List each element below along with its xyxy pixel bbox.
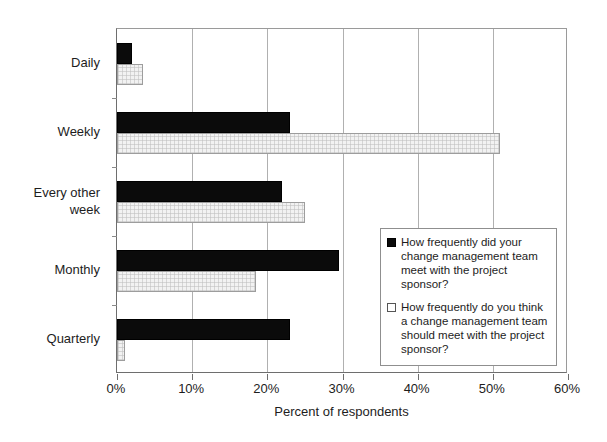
x-tick-label-30%: 30% <box>328 381 354 396</box>
x-tick-label-60%: 60% <box>554 381 580 396</box>
x-tick-label-50%: 50% <box>479 381 505 396</box>
x-tick-label-40%: 40% <box>404 381 430 396</box>
legend-swatch-dark-icon <box>387 238 396 247</box>
x-axis-tick-10% <box>192 374 193 380</box>
y-axis-label-quarterly: Quarterly <box>47 331 100 346</box>
legend-item-2: How frequently do you think a change man… <box>387 300 550 356</box>
y-axis-label-daily: Daily <box>71 55 100 70</box>
y-axis-label-monthly: Monthly <box>54 262 100 277</box>
bar-daily-series-2 <box>117 64 143 85</box>
x-axis-tick-30% <box>343 374 344 380</box>
bar-every-other-week-series-1 <box>117 181 282 202</box>
y-axis-category-labels: DailyWeeklyEvery otherweekMonthlyQuarter… <box>0 28 108 373</box>
y-axis-label-every-other-week: Every otherweek <box>34 185 100 217</box>
chart-legend: How frequently did your change managemen… <box>380 228 557 366</box>
bar-monthly-series-1 <box>117 250 339 271</box>
x-tick-label-10%: 10% <box>178 381 204 396</box>
x-axis-tick-labels: 0%10%20%30%40%50%60% <box>0 381 607 401</box>
legend-swatch-light-icon <box>387 303 396 312</box>
x-axis-tick-0% <box>117 374 118 380</box>
bar-weekly-series-1 <box>117 112 290 133</box>
gridline-30% <box>343 29 344 372</box>
x-axis-tick-40% <box>418 374 419 380</box>
legend-item-label: How frequently do you think a change man… <box>401 300 550 356</box>
y-axis-tick <box>112 305 117 306</box>
y-axis-tick <box>112 167 117 168</box>
x-axis-tick-60% <box>568 374 569 380</box>
y-axis-label-weekly: Weekly <box>58 124 100 139</box>
bar-weekly-series-2 <box>117 133 500 154</box>
bar-quarterly-series-1 <box>117 319 290 340</box>
bar-daily-series-1 <box>117 43 132 64</box>
legend-item-label: How frequently did your change managemen… <box>401 235 550 291</box>
y-axis-tick <box>112 236 117 237</box>
bar-monthly-series-2 <box>117 271 256 292</box>
bar-every-other-week-series-2 <box>117 202 305 223</box>
x-tick-label-20%: 20% <box>253 381 279 396</box>
legend-item-1: How frequently did your change managemen… <box>387 235 550 291</box>
x-tick-label-0%: 0% <box>107 381 126 396</box>
x-axis-title: Percent of respondents <box>116 404 567 419</box>
bar-quarterly-series-2 <box>117 340 125 361</box>
x-axis-tick-50% <box>493 374 494 380</box>
x-axis-tick-20% <box>267 374 268 380</box>
y-axis-tick <box>112 98 117 99</box>
bar-chart: DailyWeeklyEvery otherweekMonthlyQuarter… <box>0 0 607 442</box>
